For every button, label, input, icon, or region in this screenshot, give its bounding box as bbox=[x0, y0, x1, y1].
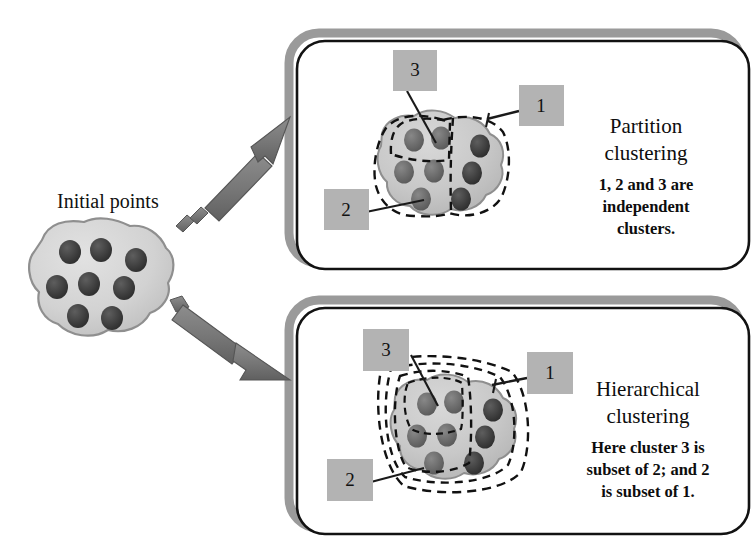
initial-point bbox=[113, 276, 135, 300]
hierarchical-text-block: Hierarchical clustering Here cluster 3 i… bbox=[587, 377, 710, 501]
initial-points-blob bbox=[29, 218, 173, 335]
hierarchical-cluster-label-1-text: 1 bbox=[545, 362, 555, 383]
initial-point bbox=[46, 275, 68, 299]
initial-point bbox=[90, 238, 112, 262]
initial-point bbox=[59, 240, 81, 264]
hierarchical-title-line-1: Hierarchical bbox=[596, 377, 700, 401]
initial-point bbox=[78, 272, 100, 296]
partition-cluster-label-3-text: 3 bbox=[410, 59, 420, 80]
partition-cluster-label-1[interactable]: 1 bbox=[519, 85, 564, 126]
partition-point bbox=[424, 160, 444, 183]
hierarchical-point bbox=[437, 424, 457, 447]
initial-point bbox=[67, 304, 89, 328]
arrow-to-partition bbox=[176, 117, 290, 232]
partition-point bbox=[394, 161, 414, 184]
hierarchical-point bbox=[407, 425, 427, 448]
partition-point bbox=[470, 135, 490, 158]
partition-body-line-3: clusters. bbox=[617, 219, 675, 238]
partition-cluster-label-1-text: 1 bbox=[536, 95, 546, 116]
hierarchical-title-line-2: clustering bbox=[607, 404, 690, 428]
partition-point bbox=[451, 188, 471, 211]
partition-title-line-1: Partition bbox=[610, 114, 683, 138]
hierarchical-point bbox=[444, 391, 464, 414]
partition-point bbox=[404, 129, 424, 152]
arrow-to-hierarchical bbox=[170, 296, 290, 380]
hierarchical-body-line-2: subset of 2; and 2 bbox=[587, 460, 710, 479]
hierarchical-cluster-label-1[interactable]: 1 bbox=[527, 352, 573, 394]
partition-point bbox=[462, 162, 482, 185]
partition-point bbox=[411, 188, 431, 211]
partition-body-line-2: independent bbox=[602, 197, 690, 216]
hierarchical-cluster-label-2[interactable]: 2 bbox=[327, 459, 373, 501]
hierarchical-body-line-3: is subset of 1. bbox=[601, 482, 695, 501]
diagram-canvas: Initial points bbox=[0, 0, 754, 546]
initial-points-caption: Initial points bbox=[57, 190, 159, 213]
hierarchical-point bbox=[475, 426, 495, 449]
hierarchical-cluster-label-3[interactable]: 3 bbox=[363, 329, 409, 371]
hierarchical-point bbox=[483, 399, 503, 422]
partition-cluster-label-3[interactable]: 3 bbox=[393, 50, 437, 91]
hierarchical-point bbox=[417, 393, 437, 416]
hierarchical-cluster-label-3-text: 3 bbox=[381, 339, 391, 360]
partition-cluster-label-2-text: 2 bbox=[341, 199, 351, 220]
hierarchical-cluster-label-2-text: 2 bbox=[345, 469, 355, 490]
hierarchical-body-line-1: Here cluster 3 is bbox=[591, 438, 705, 457]
partition-cluster-label-2[interactable]: 2 bbox=[324, 189, 369, 230]
initial-point bbox=[125, 248, 147, 272]
partition-body-line-1: 1, 2 and 3 are bbox=[599, 175, 694, 194]
partition-title-line-2: clustering bbox=[605, 141, 688, 165]
initial-point bbox=[101, 306, 123, 330]
